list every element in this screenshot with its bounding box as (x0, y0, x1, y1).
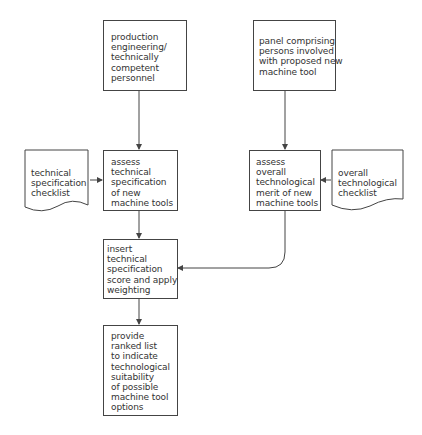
tech-checklist-label: technical specification checklist (31, 168, 86, 199)
ranked-list-label: provide ranked list to indicate technolo… (111, 331, 170, 413)
assess-overall-label: assess overall technological merit of ne… (256, 157, 318, 208)
overall-checklist-label: overall technological checklist (338, 168, 397, 199)
edge-assess-overall-to-insert (178, 210, 285, 268)
assess-tech-label: assess technical specification of new ma… (111, 157, 173, 208)
connector-layer (0, 0, 422, 435)
insert-score-label: insert technical specification score and… (107, 244, 177, 295)
production-personnel-label: production engineering/ technically comp… (111, 32, 167, 83)
panel-label: panel comprising persons involved with p… (259, 36, 343, 77)
